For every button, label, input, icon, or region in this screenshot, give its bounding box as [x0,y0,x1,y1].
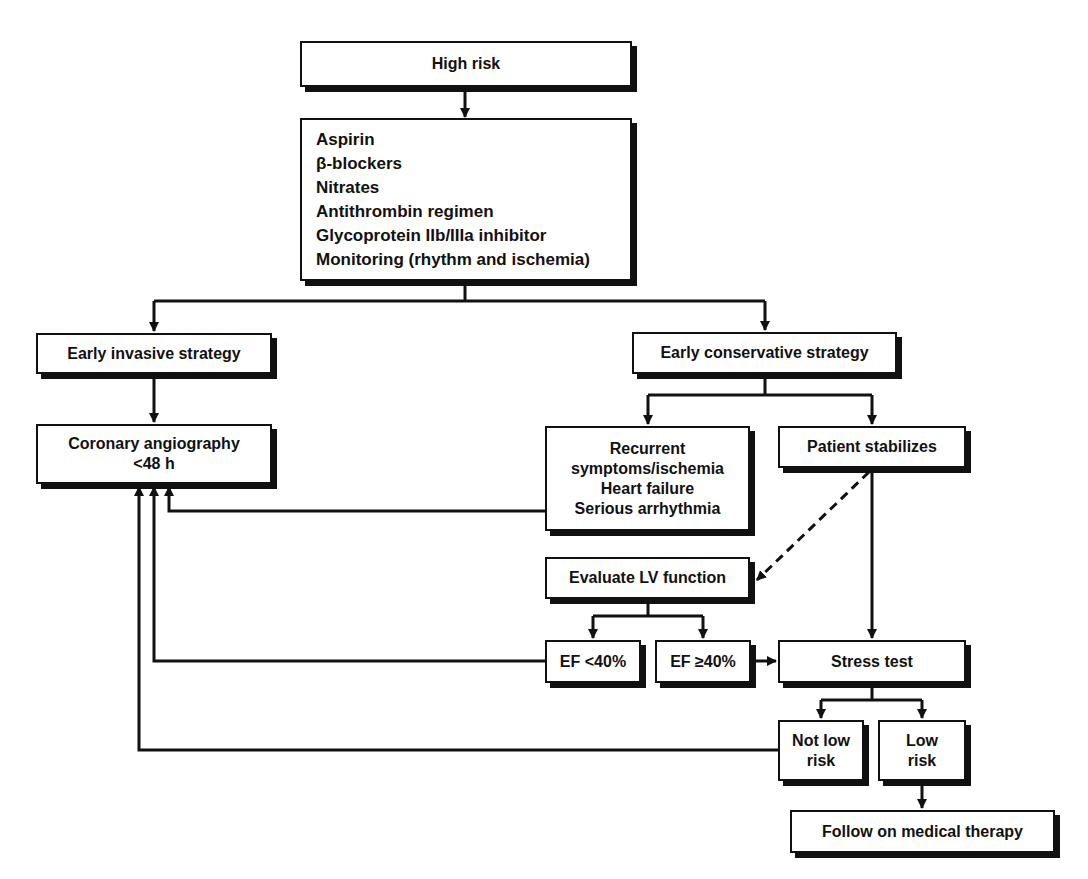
med-glycoprotein: Glycoprotein IIb/IIIa inhibitor [316,224,546,248]
med-beta-blockers: β-blockers [316,152,402,176]
node-label-line1: Not low [792,731,850,751]
edge-eflow-angio [154,487,545,661]
node-label-line2: symptoms/ischemia [571,459,724,479]
node-patient-stabilizes: Patient stabilizes [778,426,966,468]
med-antithrombin: Antithrombin regimen [316,200,494,224]
node-label-line1: Low [906,731,938,751]
node-high-risk: High risk [300,41,632,87]
med-monitoring: Monitoring (rhythm and ischemia) [316,248,590,272]
node-label-line4: Serious arrhythmia [575,499,721,519]
node-recurrent-symptoms: Recurrent symptoms/ischemia Heart failur… [545,426,750,531]
med-aspirin: Aspirin [316,128,375,152]
flowchart: High risk Aspirin β-blockers Nitrates An… [0,0,1088,879]
node-label: Evaluate LV function [569,568,726,588]
node-label-line1: Coronary angiography [68,434,240,454]
node-early-invasive: Early invasive strategy [36,333,272,374]
node-ef-low: EF <40% [545,640,641,683]
node-label-line3: Heart failure [601,479,694,499]
node-low-risk: Low risk [878,720,966,781]
node-ef-high: EF ≥40% [655,640,751,683]
node-label: EF ≥40% [670,652,736,672]
node-label-line2: risk [908,751,936,771]
node-follow-medical-therapy: Follow on medical therapy [790,810,1055,853]
edge-stabilizes-evaluate-dashed [757,472,869,580]
node-label-line2: <48 h [133,454,174,474]
node-label: High risk [432,54,500,74]
node-label: EF <40% [560,652,626,672]
node-early-conservative: Early conservative strategy [632,332,897,374]
node-coronary-angiography: Coronary angiography <48 h [36,424,272,484]
node-label: Patient stabilizes [807,437,937,457]
node-label: Stress test [831,652,913,672]
node-label: Early invasive strategy [67,344,240,364]
node-label: Early conservative strategy [660,343,868,363]
node-label-line1: Recurrent [610,439,686,459]
node-medications: Aspirin β-blockers Nitrates Antithrombin… [300,118,632,281]
node-stress-test: Stress test [778,640,966,683]
node-label-line2: risk [807,751,835,771]
edge-recurrent-angio [169,487,545,511]
med-nitrates: Nitrates [316,176,379,200]
node-evaluate-lv: Evaluate LV function [545,557,750,599]
node-label: Follow on medical therapy [822,822,1023,842]
node-not-low-risk: Not low risk [778,720,864,781]
